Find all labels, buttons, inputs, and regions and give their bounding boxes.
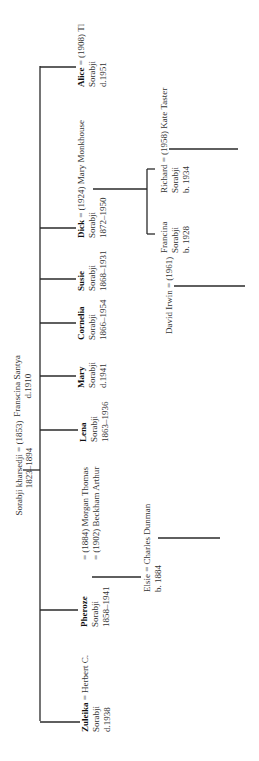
child-surname: Sorabji [87, 212, 97, 238]
svg-text:Dick = (1924) Mary Monkhouse: Dick = (1924) Mary Monkhouse [76, 120, 86, 238]
child-name: Cornelia [76, 306, 86, 340]
child-dates: 1872–1950 [98, 197, 108, 238]
svg-text:Alice = (1908) Tl: Alice = (1908) Tl [76, 23, 86, 87]
child-dates: d.1951 [98, 62, 108, 87]
francina-name: Francina [159, 222, 169, 254]
svg-text:Zuleika = Herbert C.: Zuleika = Herbert C. [80, 655, 90, 732]
child-marriage: = Herbert C. [80, 655, 90, 703]
child-name: Lena [78, 422, 88, 442]
child-pheroze: Pheroze Sorabji 1858–1941 [79, 587, 111, 628]
child-surname: Sorabji [87, 61, 97, 87]
child-name: Alice [76, 68, 86, 88]
marriage-1902: = (1902) Beckham Arthur [91, 467, 101, 560]
child-surname: Sorabji [90, 601, 100, 627]
child-alice: Alice = (1908) Tl Sorabji d.1951 [76, 23, 108, 87]
child-dates: d.1941 [98, 363, 108, 388]
mother-name: Franscina Santya [12, 355, 22, 417]
child-dates: 1858–1941 [101, 587, 111, 628]
child-zuleika: Zuleika = Herbert C. Sorabji d.1938 [80, 655, 112, 732]
david-irwin-name: David Irwin = (1961) [164, 257, 174, 334]
child-surname: Sorabji [87, 362, 97, 388]
richard-dates: b. 1934 [181, 166, 191, 194]
child-marriage: = (1908) Tl [76, 23, 86, 67]
richard-surname: Sorabji [170, 167, 180, 193]
child-marriage: = (1924) Mary Monkhouse [76, 120, 86, 220]
child-name: Susie [76, 271, 86, 291]
child-dates: d.1938 [102, 707, 112, 732]
child-name: Mary [76, 366, 86, 388]
spouse-david-irwin: David Irwin = (1961) [164, 257, 174, 334]
child-name: Dick [76, 220, 86, 238]
elsie-dates: b. 1884 [153, 565, 163, 593]
child-cornelia: Cornelia Sorabji 1866–1954 [76, 299, 108, 340]
mother-dates: d.1910 [23, 373, 33, 398]
child-susie: Susie Sorabji 1868–1931 [76, 251, 108, 292]
grandchild-francina: Francina Sorabji b. 1928 [159, 222, 191, 254]
father-dates: 1823–1894 [24, 447, 34, 488]
parent-mother: Franscina Santya d.1910 [12, 355, 33, 417]
elsie-name: Elsie = Charles Dunman [142, 503, 152, 592]
francina-dates: b. 1928 [181, 226, 191, 254]
child-surname: Sorabji [87, 314, 97, 340]
child-surname: Sorabji [87, 265, 97, 291]
pheroze-marriages: = (1884) Morgan Thomas = (1902) Beckham … [80, 467, 101, 560]
child-mary: Mary Sorabji d.1941 [76, 362, 108, 388]
father-name: Sorabji kharsedji = (1853) [14, 421, 24, 516]
child-name: Pheroze [79, 596, 89, 627]
child-dates: 1863–1936 [100, 401, 110, 442]
grandchild-elsie: Elsie = Charles Dunman b. 1884 [142, 503, 163, 592]
marriage-1884: = (1884) Morgan Thomas [80, 467, 90, 560]
child-lena: Lena Sorabji 1863–1936 [78, 401, 110, 442]
child-dates: 1866–1954 [98, 299, 108, 340]
child-surname: Sorabji [89, 416, 99, 442]
child-dates: 1868–1931 [98, 251, 108, 292]
tree-lines [23, 66, 245, 722]
richard-name: Richard = (1958) Kate Taster [159, 88, 169, 193]
child-name: Zuleika [80, 702, 90, 732]
child-surname: Sorabji [91, 706, 101, 732]
parent-father: Sorabji kharsedji = (1853) 1823–1894 [14, 421, 34, 516]
francina-surname: Sorabji [170, 227, 180, 253]
child-dick: Dick = (1924) Mary Monkhouse Sorabji 187… [76, 120, 108, 238]
grandchild-richard: Richard = (1958) Kate Taster Sorabji b. … [159, 88, 191, 193]
family-tree-diagram: Sorabji kharsedji = (1853) 1823–1894 Fra… [0, 0, 259, 761]
